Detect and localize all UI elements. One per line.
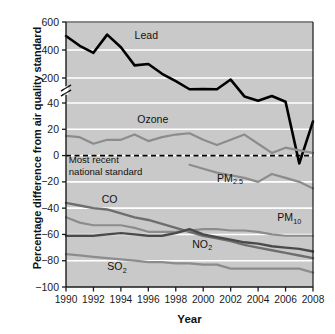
x-tick-label: 2008 xyxy=(302,294,325,305)
y-tick-label: 20 xyxy=(47,123,59,135)
series-label-ozone: Ozone xyxy=(137,113,168,125)
y-tick-label: 400 xyxy=(41,44,59,56)
x-axis-title: Year xyxy=(177,313,202,325)
y-tick-label: −60 xyxy=(41,228,59,240)
svg-text:Ozone: Ozone xyxy=(137,113,168,125)
y-tick-label: 200 xyxy=(41,72,59,84)
x-tick-label: 2006 xyxy=(274,294,297,305)
x-axis-ticks: 1990199219941996199820002002200420062008 xyxy=(55,287,325,305)
y-tick-label: −20 xyxy=(41,175,59,187)
series-label-lead: Lead xyxy=(135,29,159,41)
x-tick-label: 2002 xyxy=(219,294,242,305)
y-tick-label: 600 xyxy=(41,16,59,28)
x-tick-label: 2004 xyxy=(247,294,270,305)
x-tick-label: 2000 xyxy=(192,294,215,305)
line-chart: −100−80−60−40−2002040200400600 199019921… xyxy=(0,0,335,334)
x-tick-label: 1998 xyxy=(164,294,187,305)
x-tick-label: 1994 xyxy=(110,294,133,305)
x-axis-title-text: Year xyxy=(177,313,202,325)
y-tick-label: 0 xyxy=(53,149,59,161)
x-tick-label: 1990 xyxy=(55,294,78,305)
y-axis-title: Percentage difference from air quality s… xyxy=(31,8,43,288)
y-tick-label: −40 xyxy=(41,202,59,214)
series-label-co: CO xyxy=(102,193,118,205)
x-tick-label: 1996 xyxy=(137,294,160,305)
chart-container: Percentage difference from air quality s… xyxy=(0,0,335,334)
svg-text:CO: CO xyxy=(102,193,118,205)
x-tick-label: 1992 xyxy=(82,294,105,305)
y-tick-label: 40 xyxy=(47,97,59,109)
svg-text:Lead: Lead xyxy=(135,29,159,41)
y-tick-label: −80 xyxy=(41,254,59,266)
